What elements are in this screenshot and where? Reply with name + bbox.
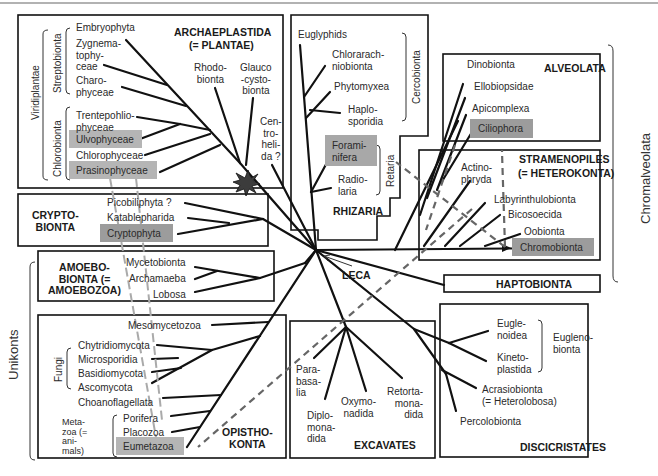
- taxon-percolobionta: Percolobionta: [460, 416, 521, 428]
- taxon-microsporidia: Microsporidia: [78, 354, 137, 366]
- excavates-title: EXCAVATES: [354, 440, 416, 452]
- taxon-basidiomycota: Basidiomycota: [78, 368, 143, 380]
- taxon-foraminifera: Forami- nifera: [332, 140, 366, 163]
- chromalveolata-label: Chromalveolata: [638, 133, 653, 224]
- taxon-phytomyxea: Phytomyxea: [334, 81, 389, 93]
- taxon-ascomycota: Ascomycota: [78, 382, 132, 394]
- leca-label: LECA: [342, 270, 371, 282]
- cercobionta-label: Cercobionta: [411, 50, 422, 104]
- taxon-placozoa: Placozoa: [123, 427, 164, 439]
- taxon-zygnematophyceae: Zygnema- tophy- ceae: [76, 38, 121, 73]
- taxon-archamaeba: Archamaeba: [129, 273, 186, 285]
- taxon-eumetazoa: Eumetazoa: [123, 441, 174, 453]
- euglenobionta-label: Eugleno- bionta: [553, 332, 593, 355]
- taxon-mycetobionta: Mycetobionta: [126, 257, 185, 269]
- cryptobionta-title: CRYPTO- BIONTA: [32, 210, 79, 233]
- viridiplantae-label: Viridiplantae: [30, 65, 41, 120]
- taxon-rhodobionta: Rhodo- bionta: [194, 62, 227, 85]
- taxon-embryophyta: Embryophyta: [76, 22, 135, 34]
- taxon-cryptophyta: Cryptophyta: [107, 228, 161, 240]
- taxon-labyrinthulobionta: Labyrinthulobionta: [494, 194, 576, 206]
- taxon-actinophryda: Actino- phryda: [461, 162, 492, 185]
- taxon-oxymonadida: Oxymo- nadida: [341, 396, 376, 419]
- archaeplastida-title: ARCHAEPLASTIDA: [174, 27, 271, 39]
- taxon-euglyphids: Euglyphids: [298, 29, 347, 41]
- taxon-chlorophyceae: Chlorophyceae: [76, 150, 143, 162]
- rhizaria-title: RHIZARIA: [333, 206, 383, 218]
- metazoa-label: Meta- zoa (= ani- mals): [62, 418, 87, 456]
- alveolata-title: ALVEOLATA: [544, 63, 606, 75]
- haptobionta-title: HAPTOBIONTA: [496, 279, 572, 291]
- taxon-chlorarachniobionta: Chlorarach- niobionta: [332, 49, 384, 72]
- taxon-ulvophyceae: Ulvophyceae: [76, 134, 134, 146]
- stramenopiles-title: STRAMENOPILES: [519, 154, 609, 166]
- taxon-dinobionta: Dinobionta: [467, 59, 515, 71]
- taxon-lobosa: Lobosa: [153, 289, 186, 301]
- taxon-ciliophora: Ciliophora: [478, 123, 523, 135]
- discicristates-title: DISCICRISTATES: [520, 442, 606, 454]
- taxon-choanoflagellata: Choanoflagellata: [78, 397, 153, 409]
- taxon-acrasiobionta: Acrasiobionta (= Heterolobosa): [482, 384, 557, 407]
- stramenopiles-subtitle: (= HETEROKONTA): [518, 168, 614, 180]
- taxon-chytridiomycota: Chytridiomycota: [78, 340, 150, 352]
- taxon-glaucocystobionta: Glauco -cysto- bionta: [240, 62, 272, 97]
- taxon-kinetoplastida: Kineto- plastida: [497, 352, 531, 375]
- taxon-radiolaria: Radio- laria: [338, 174, 367, 197]
- taxon-diplomonadida: Diplo- mona- dida: [307, 410, 335, 445]
- taxon-oobionta: Oobionta: [524, 226, 565, 238]
- opisthokonta-title: OPISTHO- KONTA: [222, 427, 273, 450]
- taxon-ellobiopsidae: Ellobiopsidae: [474, 81, 534, 93]
- taxon-bicosoecida: Bicosoecida: [508, 209, 562, 221]
- archaeplastida-subtitle: (= PLANTAE): [189, 40, 254, 52]
- taxon-retortamonadida: Retorta- mona- dida: [387, 386, 423, 421]
- streptobionta-label: Streptobionta: [52, 34, 63, 94]
- taxon-parabasalia: Para- basa- lia: [296, 364, 321, 399]
- taxon-picobiliphyta: Picobiliphyta ?: [107, 197, 171, 209]
- fungi-label: Fungi: [53, 357, 64, 382]
- taxon-haplosporidia: Haplo- sporidia: [348, 104, 383, 127]
- amoebobionta-title: AMOEBO- BIONTA (= AMOEBOZOA): [48, 262, 121, 297]
- unikonts-label: Unikonts: [6, 329, 21, 380]
- taxon-centrohelida: Cen- tro- heli- da ?: [260, 116, 282, 162]
- taxon-porifera: Porifera: [123, 413, 158, 425]
- taxon-prasinophyceae: Prasinophyceae: [76, 165, 148, 177]
- taxon-euglenoidea: Eugle- noidea: [497, 318, 527, 341]
- taxon-chromobionta: Chromobionta: [520, 242, 583, 254]
- taxon-charophyceae: Charo- phyceae: [76, 75, 114, 98]
- taxon-apicomplexa: Apicomplexa: [472, 103, 529, 115]
- taxon-katablepharida: Katablepharida: [107, 212, 174, 224]
- retaria-label: Retaria: [385, 155, 396, 187]
- star-marker: [233, 170, 260, 196]
- chlorobionta-label: Chlorobionta: [52, 120, 63, 177]
- taxon-mesomycetozoa: Mesomycetozoa: [128, 320, 201, 332]
- taxon-trentepohliophyceae: Trentepohlio- phyceae: [76, 110, 135, 133]
